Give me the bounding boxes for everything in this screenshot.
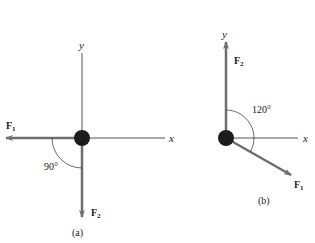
y-axis-label-a: y <box>78 39 84 51</box>
caption-b: (b) <box>258 195 270 207</box>
panel-a: y x F1 F2 90° (a) <box>6 39 174 239</box>
caption-a: (a) <box>72 227 83 239</box>
force-f1-label-a: F1 <box>6 120 16 133</box>
force-diagram: y x F1 F2 90° (a) y x F2 F1 120° <box>0 0 315 243</box>
x-axis-label-b: x <box>302 132 308 144</box>
panel-b: y x F2 F1 120° (b) <box>218 28 308 207</box>
angle-label-b: 120° <box>252 104 271 115</box>
force-f1-arrow-b <box>226 138 291 175</box>
x-axis-label-a: x <box>168 132 174 144</box>
angle-label-a: 90° <box>44 161 58 172</box>
particle-a <box>74 130 90 146</box>
force-f1-label-b: F1 <box>294 179 304 192</box>
particle-b <box>218 130 234 146</box>
y-axis-label-b: y <box>221 28 227 40</box>
force-f2-label-b: F2 <box>234 55 244 68</box>
force-f2-label-a: F2 <box>91 207 101 220</box>
